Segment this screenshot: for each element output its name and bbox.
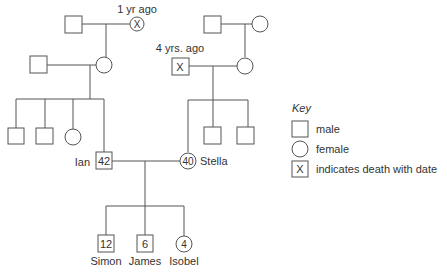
mother-name: Stella xyxy=(200,155,228,167)
male-symbol xyxy=(30,56,47,73)
legend-title: Key xyxy=(292,102,312,114)
child-name: Simon xyxy=(90,255,121,267)
male-symbol xyxy=(204,16,221,33)
g4-children: 12 Simon 6 James 4 Isobel xyxy=(90,235,198,267)
child-age: 12 xyxy=(100,238,112,250)
child-age: 6 xyxy=(142,238,148,250)
death-x-icon: X xyxy=(134,19,141,30)
male-symbol xyxy=(65,16,82,33)
g1-right-couple xyxy=(204,16,268,57)
father-age: 42 xyxy=(98,155,110,167)
death-x-icon: X xyxy=(296,163,304,175)
female-symbol xyxy=(237,58,253,74)
father-name: Ian xyxy=(75,156,90,168)
child-name: James xyxy=(129,255,162,267)
death-date-label: 1 yr ago xyxy=(117,3,157,15)
male-symbol xyxy=(237,127,254,144)
pedigree-diagram: X 1 yr ago 4 yrs. ago X xyxy=(0,0,447,272)
g2-right-couple: 4 yrs. ago X xyxy=(156,42,254,152)
g2-left-couple xyxy=(8,56,112,152)
male-symbol xyxy=(8,128,24,144)
male-key-icon xyxy=(292,121,308,137)
legend-label: indicates death with date xyxy=(316,163,437,175)
female-symbol xyxy=(252,16,268,32)
death-x-icon: X xyxy=(176,61,184,73)
male-symbol xyxy=(36,128,53,144)
male-symbol xyxy=(204,127,221,144)
legend: Key male female X indicates death with d… xyxy=(292,102,437,177)
mother-age: 40 xyxy=(182,156,194,167)
g3-couple: Ian 42 40 Stella xyxy=(75,152,229,236)
child-name: Isobel xyxy=(169,255,198,267)
legend-label: female xyxy=(316,143,349,155)
child-age: 4 xyxy=(181,239,187,250)
female-key-icon xyxy=(292,141,308,157)
death-date-label: 4 yrs. ago xyxy=(156,42,204,54)
female-symbol xyxy=(96,57,112,73)
legend-label: male xyxy=(316,123,340,135)
g1-left-couple: X 1 yr ago xyxy=(65,3,157,57)
female-symbol xyxy=(65,129,81,145)
